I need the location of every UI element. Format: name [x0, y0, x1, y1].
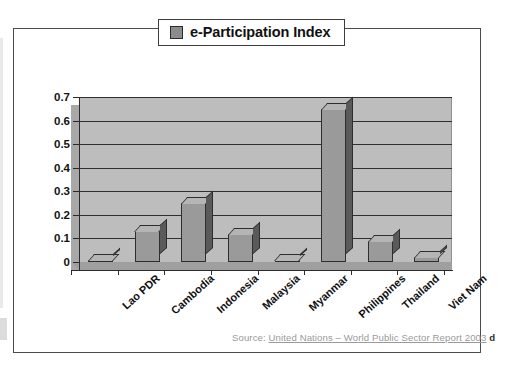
y-axis-tick-label: 0.5: [54, 138, 70, 150]
bar-side-face: [253, 221, 260, 254]
x-axis-label-lao-pdr: Lao PDR: [120, 272, 162, 312]
bar-slot: [405, 97, 452, 262]
x-axis-label-indonesia: Indonesia: [214, 272, 260, 315]
x-axis-tick-mark: [71, 270, 72, 275]
y-axis-tick-label: 0.4: [54, 162, 70, 174]
y-axis-tick-label: 0.3: [54, 185, 70, 197]
bar-side-face: [346, 96, 353, 254]
y-axis-tick-mark: [73, 168, 79, 169]
y-axis-tick-label: 0: [64, 256, 70, 268]
source-trailing-text: d: [489, 332, 495, 343]
y-axis-tick-mark: [73, 97, 79, 98]
bar[interactable]: [88, 260, 113, 263]
source-link[interactable]: United Nations – World Public Sector Rep…: [269, 332, 487, 343]
x-axis-label-myanmar: Myanmar: [307, 272, 351, 313]
bar[interactable]: [135, 231, 160, 262]
bar-slot: [172, 97, 219, 262]
y-axis-tick-mark: [73, 262, 79, 263]
bar-slot: [266, 97, 313, 262]
scan-artifact-left-upper: [0, 38, 3, 308]
plot-side-wall: [71, 105, 79, 270]
bar-slot: [219, 97, 266, 262]
plot-area: [79, 97, 452, 262]
y-axis-tick-mark: [73, 238, 79, 239]
y-axis-tick-label: 0.7: [54, 91, 70, 103]
bar-side-face: [160, 219, 167, 254]
bar[interactable]: [228, 234, 253, 262]
plot-floor: [71, 262, 452, 270]
x-axis-label-malaysia: Malaysia: [260, 272, 302, 312]
y-axis-tick-mark: [73, 191, 79, 192]
scan-artifact-left-lower: [0, 318, 7, 340]
source-prefix: Source:: [232, 332, 269, 343]
bar-slot: [359, 97, 406, 262]
x-axis-line: [71, 270, 453, 271]
y-axis-tick-label: 0.1: [54, 232, 70, 244]
bar-side-face: [393, 228, 400, 254]
bar-slot: [79, 97, 126, 262]
y-axis-tick-mark: [73, 144, 79, 145]
bar[interactable]: [321, 109, 346, 262]
y-axis-tick-label: 0.2: [54, 209, 70, 221]
legend-label: e-Participation Index: [190, 24, 331, 40]
bar[interactable]: [368, 241, 393, 262]
y-axis-tick-labels: 00.10.20.30.40.50.60.7: [34, 0, 70, 373]
bar-side-face: [206, 191, 213, 254]
y-axis-tick-mark: [73, 215, 79, 216]
y-axis-tick-label: 0.6: [54, 115, 70, 127]
x-axis-label-philippines: Philippines: [356, 272, 408, 320]
bar-slot: [312, 97, 359, 262]
chart-legend: e-Participation Index: [158, 19, 345, 46]
bar[interactable]: [181, 203, 206, 262]
bar-slot: [126, 97, 173, 262]
legend-swatch-icon: [170, 26, 183, 39]
bar[interactable]: [414, 257, 439, 262]
y-axis-line: [79, 97, 80, 270]
x-axis-label-cambodia: Cambodia: [168, 272, 216, 317]
source-note: Source: United Nations – World Public Se…: [232, 332, 495, 343]
y-axis-tick-mark: [73, 121, 79, 122]
bar[interactable]: [275, 260, 300, 263]
